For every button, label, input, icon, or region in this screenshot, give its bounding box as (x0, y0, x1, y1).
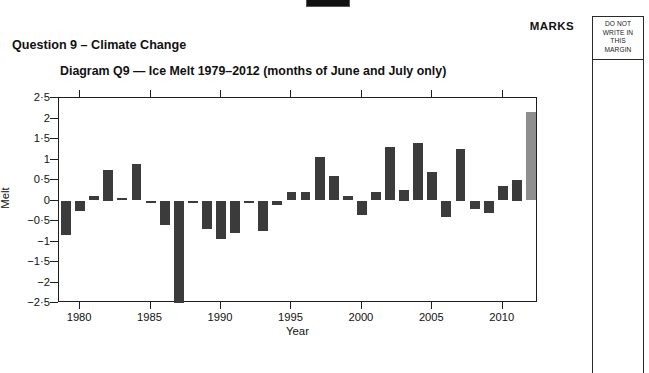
bar-series (59, 98, 536, 301)
y-tick (50, 138, 58, 139)
x-tick-label: 2010 (489, 311, 514, 323)
x-tick-top (502, 90, 503, 97)
margin-notice-line-3: THIS (595, 37, 641, 46)
y-tick (50, 159, 58, 160)
x-tick (150, 302, 151, 309)
x-tick-label: 1990 (208, 311, 233, 323)
x-axis-title: Year (58, 325, 537, 337)
bar (512, 180, 522, 201)
y-tick (50, 282, 58, 283)
y-tick-label: −1·5 (4, 255, 50, 267)
y-tick-label: 0·5 (4, 173, 50, 185)
plot-area (58, 97, 537, 302)
bar (61, 201, 71, 236)
bar (427, 172, 437, 201)
bar (202, 201, 212, 230)
x-tick (502, 302, 503, 309)
bar (329, 176, 339, 201)
bar (146, 201, 156, 203)
y-tick (50, 118, 58, 119)
y-tick-label: −0·5 (4, 214, 50, 226)
page-marker (306, 0, 350, 7)
bar (441, 201, 451, 217)
y-tick-label: −1 (4, 235, 50, 247)
bar (216, 201, 226, 240)
x-tick-top (220, 90, 221, 97)
bar (132, 164, 142, 201)
margin-notice-line-1: DO NOT (595, 20, 641, 29)
x-tick-top (290, 90, 291, 97)
do-not-write-margin-box: DO NOT WRITE IN THIS MARGIN (592, 16, 644, 373)
x-tick (79, 302, 80, 309)
bar (498, 186, 508, 200)
x-axis-ticks: 1980198519901995200020052010 (58, 302, 537, 310)
diagram-heading: Diagram Q9 — Ice Melt 1979–2012 (months … (60, 64, 446, 78)
x-tick (431, 302, 432, 309)
bar (103, 170, 113, 201)
bar (315, 157, 325, 200)
bar (174, 201, 184, 304)
y-tick (50, 97, 58, 98)
y-tick (50, 302, 58, 303)
x-tick-top (431, 90, 432, 97)
bar (258, 201, 268, 232)
y-tick-label: 2 (4, 112, 50, 124)
x-tick-label: 1980 (67, 311, 92, 323)
bar (272, 201, 282, 205)
y-axis-title: Melt (0, 187, 11, 209)
x-tick-label: 2005 (419, 311, 444, 323)
y-tick-label: 1·5 (4, 132, 50, 144)
bar (413, 143, 423, 200)
margin-notice-line-2: WRITE IN (595, 29, 641, 38)
x-tick-top (150, 90, 151, 97)
bar (188, 201, 198, 203)
x-tick-label: 1985 (137, 311, 162, 323)
x-tick-top (361, 90, 362, 97)
x-tick (290, 302, 291, 309)
x-tick (220, 302, 221, 309)
bar (244, 201, 254, 203)
bar (470, 201, 480, 209)
bar (230, 201, 240, 234)
y-tick (50, 200, 58, 201)
x-tick-label: 1995 (278, 311, 303, 323)
bar-chart: 2·521·510·50−0·5−1−1·5−2−2·5 Melt 198019… (0, 88, 560, 338)
y-axis-labels: 2·521·510·50−0·5−1−1·5−2−2·5 (0, 88, 50, 338)
bar (371, 192, 381, 200)
bar (385, 147, 395, 200)
bar (160, 201, 170, 226)
y-tick-label: −2·5 (4, 296, 50, 308)
question-heading: Question 9 – Climate Change (12, 38, 186, 52)
bar (301, 192, 311, 200)
y-tick (50, 261, 58, 262)
bar (287, 192, 297, 200)
margin-notice-line-4: MARGIN (595, 46, 641, 55)
bar (117, 198, 127, 200)
bar (456, 149, 466, 200)
y-tick-label: 2·5 (4, 91, 50, 103)
margin-notice: DO NOT WRITE IN THIS MARGIN (593, 17, 643, 60)
bar (399, 190, 409, 200)
bar (343, 196, 353, 200)
marks-label: MARKS (530, 20, 574, 32)
bar (75, 201, 85, 211)
y-tick (50, 241, 58, 242)
y-tick (50, 179, 58, 180)
bar (89, 196, 99, 200)
bar (526, 112, 536, 200)
bar (484, 201, 494, 213)
y-tick-label: −2 (4, 276, 50, 288)
y-tick-label: 1 (4, 153, 50, 165)
x-tick (361, 302, 362, 309)
x-axis-ticks-top (58, 97, 537, 105)
y-tick-label: 0 (4, 194, 50, 206)
bar (357, 201, 367, 215)
y-tick (50, 220, 58, 221)
x-tick-label: 2000 (348, 311, 373, 323)
x-tick-top (79, 90, 80, 97)
